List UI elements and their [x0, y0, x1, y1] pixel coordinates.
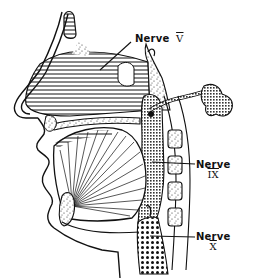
- frontal-sinus: [64, 12, 76, 39]
- cervical-spine: [164, 96, 190, 270]
- nasal-cavity: [26, 42, 150, 116]
- label-word: Nerve: [135, 33, 169, 44]
- label-nerve-v: Nerve V: [135, 34, 184, 44]
- label-nerve-ix: Nerve IX: [196, 160, 230, 180]
- label-numeral: V: [176, 33, 183, 44]
- label-numeral: IX: [196, 170, 230, 180]
- label-nerve-x: Nerve X: [196, 232, 230, 252]
- label-numeral: X: [196, 242, 230, 252]
